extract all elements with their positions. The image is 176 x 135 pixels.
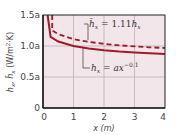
x-tick-2: 2 [101,112,107,122]
y-tick-1.0a: 1.0a [20,41,40,51]
y-axis-label: hx, h̄x (W/m2·K) [5,32,16,92]
x-tick-1: 1 [71,112,77,122]
y-tick-0.5a: 0.5a [20,72,40,82]
x-tick-0: 0 [41,112,47,122]
y-tick-0: 0 [34,103,40,113]
x-tick-3: 3 [132,112,138,122]
x-axis-label: x (m) [92,124,114,133]
x-tick-4: 4 [160,112,166,122]
y-tick-1.5a: 1.5a [20,10,40,20]
chart: h̄x = 1.11hx hx = ax−0.1 1.5a 1.0a 0.5a … [0,0,176,135]
